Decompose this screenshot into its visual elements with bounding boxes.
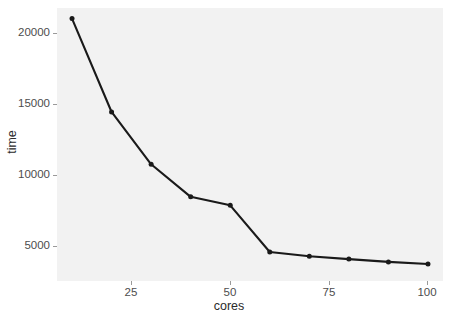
y-tick-label-5000: 5000 — [0, 239, 50, 251]
x-tick-mark-75 — [329, 281, 330, 285]
y-axis-title: time — [5, 112, 19, 172]
data-point — [425, 262, 430, 267]
data-series-line — [72, 19, 428, 264]
data-point — [228, 203, 233, 208]
y-tick-mark-5000 — [53, 246, 57, 247]
y-tick-mark-15000 — [53, 104, 57, 105]
x-tick-label-25: 25 — [101, 286, 161, 298]
line-plot — [57, 8, 443, 281]
data-point — [70, 16, 75, 21]
y-tick-mark-10000 — [53, 175, 57, 176]
data-point — [149, 162, 154, 167]
x-axis-title: cores — [0, 299, 458, 313]
x-tick-label-100: 100 — [397, 286, 457, 298]
x-tick-label-75: 75 — [299, 286, 359, 298]
data-point — [307, 254, 312, 259]
x-tick-mark-50 — [230, 281, 231, 285]
data-point — [346, 257, 351, 262]
chart-figure: 20000 15000 10000 5000 25 50 75 100 core… — [0, 0, 458, 321]
plot-panel — [57, 8, 443, 281]
x-tick-mark-25 — [131, 281, 132, 285]
data-point — [109, 109, 114, 114]
x-tick-label-50: 50 — [200, 286, 260, 298]
y-tick-label-15000: 15000 — [0, 97, 50, 109]
data-point — [267, 250, 272, 255]
data-point — [386, 259, 391, 264]
data-point — [188, 194, 193, 199]
y-tick-label-20000: 20000 — [0, 26, 50, 38]
x-tick-mark-100 — [427, 281, 428, 285]
y-tick-mark-20000 — [53, 33, 57, 34]
